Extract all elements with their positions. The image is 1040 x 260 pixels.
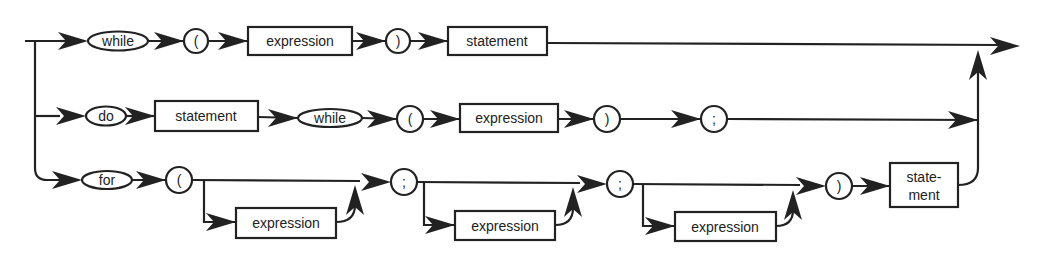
terminal-semicolon-label: ; [712,111,716,127]
entry-trunk [25,41,60,180]
optional-expression-3: expression [633,177,826,241]
optional-expression-1: expression [192,173,391,238]
terminal-rparen-label: ) [837,178,842,194]
nonterminal-statement-label-line2: ment [908,187,939,203]
arrow-icon [796,177,826,195]
nonterminal-expression-label: expression [475,110,543,126]
nonterminal-statement-label-line1: state- [906,169,941,185]
nonterminal-expression-label: expression [691,219,759,235]
terminal-lparen-label: ( [194,33,199,49]
terminal-rparen-label: ) [396,33,401,49]
row-for-statement: for ( expression ; expression [52,50,987,241]
terminal-rparen-label: ) [605,111,610,127]
terminal-semicolon-label: ; [402,174,406,190]
arrow-icon [56,107,86,125]
arrow-icon [577,175,607,193]
terminal-semicolon-label: ; [618,176,622,192]
nonterminal-statement-label: statement [466,33,528,49]
arrow-icon [361,173,391,191]
terminal-lparen-label: ( [177,172,182,188]
terminal-do-label: do [98,108,114,124]
row-do-while-statement: do statement while ( expression ) ; [56,101,978,132]
nonterminal-expression-label: expression [471,218,539,234]
row-while-statement: while ( expression ) statement [58,27,1020,55]
terminal-for-label: for [99,172,116,188]
nonterminal-expression-label: expression [252,215,320,231]
syntax-diagram: while ( expression ) statement do statem… [0,0,1040,260]
nonterminal-expression-label: expression [266,33,334,49]
nonterminal-statement-label: statement [175,108,237,124]
optional-expression-2: expression [417,175,607,240]
terminal-while-label: while [101,33,134,49]
terminal-lparen-label: ( [408,111,413,127]
terminal-while-label: while [313,110,346,126]
